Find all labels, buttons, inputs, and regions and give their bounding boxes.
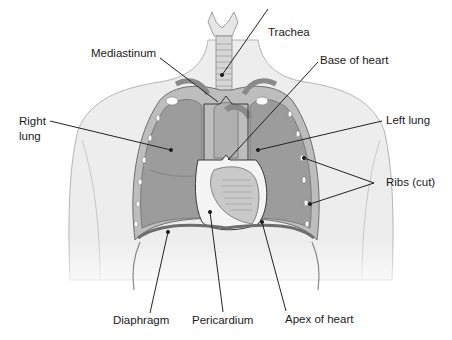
label-apex-of-heart: Apex of heart [285, 313, 353, 326]
label-ribs-cut: Ribs (cut) [386, 176, 435, 189]
label-diaphragm: Diaphragm [113, 314, 169, 327]
label-mediastinum: Mediastinum [91, 47, 156, 60]
thorax-diagram [0, 0, 452, 340]
label-left-lung: Left lung [386, 114, 430, 127]
label-right-lung-line2: lung [19, 130, 41, 143]
label-right-lung-line1: Right [19, 115, 46, 128]
label-pericardium: Pericardium [192, 314, 253, 327]
label-base-of-heart: Base of heart [320, 54, 388, 67]
label-trachea: Trachea [268, 26, 310, 39]
